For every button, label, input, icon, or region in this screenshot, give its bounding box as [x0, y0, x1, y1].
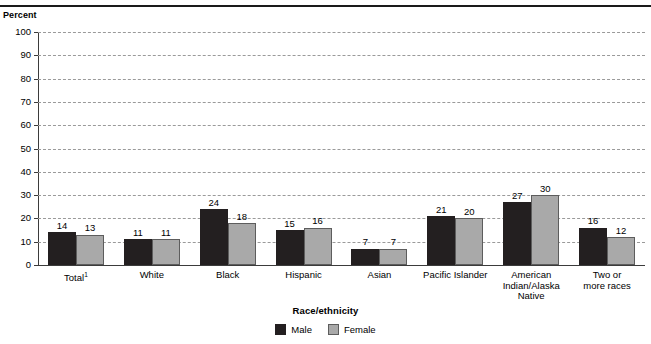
y-axis-label-70: 70 — [0, 97, 31, 107]
bar-group: 77 — [351, 32, 407, 265]
y-axis-label-0: 0 — [0, 260, 31, 270]
bar-value-label: 16 — [579, 216, 607, 226]
bar-female[interactable]: 11 — [152, 239, 180, 265]
bar-group: 1516 — [276, 32, 332, 265]
bar-pair: 2730 — [503, 32, 559, 265]
y-axis-tick-0 — [34, 265, 38, 266]
footnote-marker: 1 — [84, 271, 88, 278]
bar-rect-female[interactable] — [304, 228, 332, 265]
bar-pair: 2120 — [427, 32, 483, 265]
bar-male[interactable]: 14 — [48, 232, 76, 265]
category-label: Two or more races — [569, 270, 645, 291]
y-axis-label-50: 50 — [0, 144, 31, 154]
y-axis-tick-70 — [34, 102, 38, 103]
y-axis-tick-60 — [34, 125, 38, 126]
y-axis-tick-100 — [34, 32, 38, 33]
bar-value-label: 24 — [200, 198, 228, 208]
legend-item-female[interactable]: Female — [328, 324, 376, 335]
y-axis-tick-90 — [34, 55, 38, 56]
bar-rect-male[interactable] — [503, 202, 531, 265]
bar-rect-female[interactable] — [607, 237, 635, 265]
bar-rect-female[interactable] — [455, 218, 483, 265]
bar-value-label: 11 — [152, 228, 180, 238]
bar-value-label: 20 — [455, 207, 483, 217]
x-axis-line — [38, 265, 645, 266]
bar-male[interactable]: 11 — [124, 239, 152, 265]
bar-group: 1413 — [48, 32, 104, 265]
bar-female[interactable]: 7 — [379, 249, 407, 265]
bar-rect-male[interactable] — [200, 209, 228, 265]
y-axis-label-60: 60 — [0, 120, 31, 130]
chart-plot-area: 141311112418151677212027301612 — [38, 32, 645, 265]
bar-value-label: 14 — [48, 221, 76, 231]
bar-group: 2730 — [503, 32, 559, 265]
bar-pair: 1413 — [48, 32, 104, 265]
bar-value-label: 15 — [276, 219, 304, 229]
y-axis-tick-80 — [34, 79, 38, 80]
bar-rect-female[interactable] — [76, 235, 104, 265]
bar-rect-female[interactable] — [152, 239, 180, 265]
category-label: American Indian/Alaska Native — [493, 270, 569, 302]
bar-male[interactable]: 27 — [503, 202, 531, 265]
chart-legend: MaleFemale — [0, 324, 651, 335]
bar-male[interactable]: 15 — [276, 230, 304, 265]
y-axis-tick-20 — [34, 218, 38, 219]
bar-rect-male[interactable] — [48, 232, 76, 265]
bar-male[interactable]: 7 — [351, 249, 379, 265]
x-axis-title: Race/ethnicity — [0, 305, 651, 316]
y-axis-tick-30 — [34, 195, 38, 196]
bar-group: 1111 — [124, 32, 180, 265]
category-label: Hispanic — [266, 270, 342, 281]
bar-female[interactable]: 20 — [455, 218, 483, 265]
bar-value-label: 27 — [503, 191, 531, 201]
bar-rect-female[interactable] — [531, 195, 559, 265]
y-axis-tick-40 — [34, 172, 38, 173]
y-axis-label-100: 100 — [0, 27, 31, 37]
y-axis-label-30: 30 — [0, 190, 31, 200]
bar-group: 2418 — [200, 32, 256, 265]
bar-male[interactable]: 21 — [427, 216, 455, 265]
bar-female[interactable]: 16 — [304, 228, 332, 265]
bar-value-label: 21 — [427, 205, 455, 215]
category-label: White — [114, 270, 190, 281]
bar-rect-male[interactable] — [351, 249, 379, 265]
bar-value-label: 7 — [351, 237, 379, 247]
bar-value-label: 13 — [76, 223, 104, 233]
y-axis-label-20: 20 — [0, 214, 31, 224]
bar-female[interactable]: 30 — [531, 195, 559, 265]
bar-value-label: 7 — [379, 237, 407, 247]
y-axis-label-90: 90 — [0, 51, 31, 61]
bar-group: 1612 — [579, 32, 635, 265]
legend-label: Male — [291, 324, 312, 335]
category-label: Pacific Islander — [417, 270, 493, 281]
legend-label: Female — [344, 324, 376, 335]
category-label: Black — [190, 270, 266, 281]
bar-rect-male[interactable] — [276, 230, 304, 265]
y-axis-tick-10 — [34, 242, 38, 243]
legend-swatch-male — [275, 324, 286, 335]
y-axis-label-10: 10 — [0, 237, 31, 247]
bar-male[interactable]: 24 — [200, 209, 228, 265]
top-divider-rule — [0, 5, 651, 7]
bar-rect-male[interactable] — [427, 216, 455, 265]
bar-female[interactable]: 18 — [228, 223, 256, 265]
bar-rect-male[interactable] — [124, 239, 152, 265]
bar-rect-male[interactable] — [579, 228, 607, 265]
bar-rect-female[interactable] — [228, 223, 256, 265]
bar-pair: 77 — [351, 32, 407, 265]
y-axis-label-40: 40 — [0, 167, 31, 177]
bar-value-label: 16 — [304, 216, 332, 226]
legend-swatch-female — [328, 324, 339, 335]
bar-male[interactable]: 16 — [579, 228, 607, 265]
bar-group: 2120 — [427, 32, 483, 265]
legend-item-male[interactable]: Male — [275, 324, 312, 335]
category-label: Asian — [342, 270, 418, 281]
bar-rect-female[interactable] — [379, 249, 407, 265]
bar-value-label: 12 — [607, 226, 635, 236]
y-axis-tick-50 — [34, 149, 38, 150]
bar-value-label: 11 — [124, 228, 152, 238]
bar-value-label: 30 — [531, 184, 559, 194]
bar-female[interactable]: 12 — [607, 237, 635, 265]
bar-female[interactable]: 13 — [76, 235, 104, 265]
bar-pair: 1516 — [276, 32, 332, 265]
